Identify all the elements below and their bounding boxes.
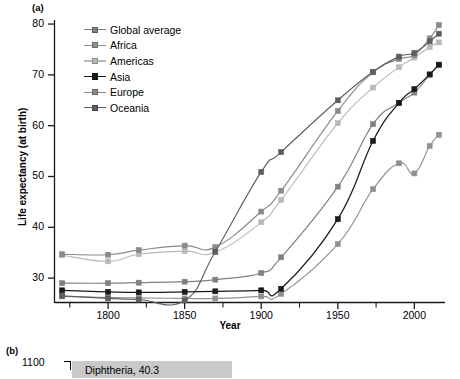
legend-label: Americas — [106, 55, 154, 67]
legend-swatch-icon — [84, 71, 106, 82]
y-tick-label-40: 40 — [18, 220, 44, 232]
panel-a-figure: (a) Life expectancy (at birth) Year 3040… — [0, 0, 460, 340]
panel-b-axis-corner — [70, 361, 71, 370]
y-tick-label-30: 30 — [18, 271, 44, 283]
panel-b-y-tick-label: 1100 — [22, 356, 45, 368]
legend-item-europe[interactable]: Europe — [84, 84, 181, 100]
legend-label: Global average — [106, 24, 181, 36]
y-tick-label-70: 70 — [18, 68, 44, 80]
panel-b-label: (b) — [6, 345, 18, 356]
x-tick-label-1900: 1900 — [241, 309, 281, 321]
legend-swatch-icon — [84, 102, 106, 113]
legend-swatch-icon — [84, 24, 106, 35]
legend-item-americas[interactable]: Americas — [84, 53, 181, 69]
y-tick-label-80: 80 — [18, 17, 44, 29]
legend-item-africa[interactable]: Africa — [84, 38, 181, 54]
y-axis-ticks — [48, 24, 55, 278]
legend-swatch-icon — [84, 40, 106, 51]
y-tick-label-50: 50 — [18, 169, 44, 181]
legend-swatch-icon — [84, 87, 106, 98]
legend-label: Oceania — [106, 102, 149, 114]
legend-item-global-average[interactable]: Global average — [84, 22, 181, 38]
legend-item-oceania[interactable]: Oceania — [84, 100, 181, 116]
legend-swatch-icon — [84, 55, 106, 66]
legend-label: Africa — [106, 39, 137, 51]
y-tick-label-60: 60 — [18, 119, 44, 131]
chart-legend: Global averageAfricaAmericasAsiaEuropeOc… — [84, 22, 181, 116]
x-tick-label-2000: 2000 — [394, 309, 434, 321]
panel-b-figure: 1100 Diphtheria, 40.3 — [0, 356, 460, 379]
x-tick-label-1850: 1850 — [165, 309, 205, 321]
legend-label: Asia — [106, 71, 130, 83]
x-tick-label-1800: 1800 — [88, 309, 128, 321]
line-chart-plot — [0, 0, 460, 340]
x-tick-label-1950: 1950 — [318, 309, 358, 321]
legend-item-asia[interactable]: Asia — [84, 69, 181, 85]
panel-b-bar-label: Diphtheria, 40.3 — [85, 364, 159, 376]
legend-label: Europe — [106, 86, 144, 98]
